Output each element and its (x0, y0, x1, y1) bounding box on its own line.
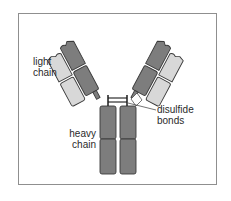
disulfide-bonds (108, 98, 127, 102)
disulfide-label-line1: disulfide (157, 104, 194, 115)
heavy-chain-label: heavy chain (66, 128, 96, 150)
hinge-region (108, 95, 127, 106)
light-chain-label: light chain (33, 56, 57, 78)
heavy-chain-stem (100, 106, 136, 174)
light-chain-label-line2: chain (33, 67, 57, 78)
heavy-chain-label-line2: chain (66, 139, 96, 150)
left-hinge (93, 90, 100, 99)
disulfide-bonds-label: disulfide bonds (157, 104, 194, 126)
heavy-chain-label-line1: heavy (66, 128, 96, 139)
stem-left-upper-domain (100, 106, 116, 139)
stem-right-upper-domain (120, 106, 136, 139)
light-chain-label-line1: light (33, 56, 57, 67)
antibody-illustration (0, 0, 231, 201)
stem-left-lower-domain (100, 139, 116, 174)
stem-right-lower-domain (120, 139, 136, 174)
disulfide-label-line2: bonds (157, 115, 194, 126)
antibody-diagram: light chain heavy chain disulfide bonds (0, 0, 231, 201)
